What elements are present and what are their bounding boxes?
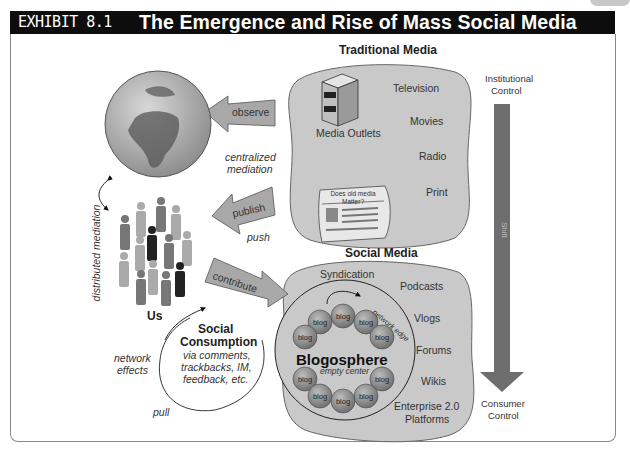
item-radio: Radio <box>419 150 446 162</box>
item-platforms: Platforms <box>405 413 449 425</box>
newspaper-headline: Does old media Matter? <box>328 190 378 206</box>
svg-text:blog: blog <box>298 333 312 342</box>
item-forums: Forums <box>416 344 452 356</box>
effects-label: effects <box>117 364 148 376</box>
svg-text:blog: blog <box>375 375 389 384</box>
social-media-heading: Social Media <box>345 246 418 260</box>
shift-arrow <box>480 104 524 392</box>
people-icon <box>119 197 192 306</box>
svg-text:blog: blog <box>359 318 373 327</box>
syndication-label: Syndication <box>320 268 374 280</box>
building-icon <box>322 74 358 126</box>
institutional-control-label: Control <box>491 85 522 96</box>
item-vlogs: Vlogs <box>414 312 440 324</box>
social-consumption-line-1: via comments, <box>183 349 251 361</box>
item-enterprise: Enterprise 2.0 <box>394 400 459 412</box>
social-consumption-line-3: feedback, etc. <box>183 373 248 385</box>
mediation-label: mediation <box>227 163 273 175</box>
empty-center-label: empty center <box>320 366 369 376</box>
svg-text:blog: blog <box>298 375 312 384</box>
social-consumption-title-1: Social <box>198 322 233 336</box>
item-wikis: Wikis <box>421 375 446 387</box>
media-outlets-label: Media Outlets <box>316 127 381 139</box>
social-consumption-line-2: trackbacks, IM, <box>181 361 252 373</box>
network-label: network <box>114 352 151 364</box>
social-consumption-title-2: Consumption <box>180 335 257 349</box>
item-movies: Movies <box>410 115 443 127</box>
svg-text:blog: blog <box>375 333 389 342</box>
consumer-label: Consumer <box>481 398 525 409</box>
traditional-media-heading: Traditional Media <box>339 43 437 57</box>
pull-label: pull <box>153 406 169 418</box>
svg-text:blog: blog <box>359 392 373 401</box>
centralized-label: centralized <box>225 151 276 163</box>
distributed-mediation-label: distributed mediation <box>90 205 102 302</box>
item-podcasts: Podcasts <box>400 280 443 292</box>
svg-text:blog: blog <box>336 397 350 406</box>
svg-text:blog: blog <box>336 312 350 321</box>
institutional-label: Institutional <box>485 73 533 84</box>
observe-label: observe <box>232 106 269 118</box>
push-label: push <box>247 231 270 243</box>
svg-text:blog: blog <box>313 318 327 327</box>
shift-label: Shift <box>500 222 509 239</box>
us-label: Us <box>147 309 162 323</box>
item-television: Television <box>393 82 439 94</box>
svg-text:blog: blog <box>313 392 327 401</box>
consumer-control-label: Control <box>488 410 519 421</box>
item-print: Print <box>426 186 448 198</box>
